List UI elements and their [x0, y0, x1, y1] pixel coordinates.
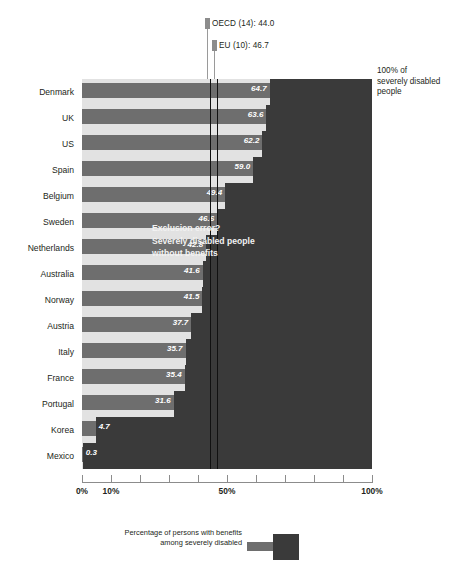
bar [82, 83, 270, 98]
oecd-marker [205, 18, 210, 29]
category-label: France [0, 365, 78, 391]
bar-value-label: 62.2 [244, 136, 263, 145]
bar-row: 35.7 [82, 339, 372, 365]
bar-value-label: 41.5 [184, 292, 203, 301]
axis-tick [285, 475, 286, 483]
bar-row: 0.3 [82, 443, 372, 469]
bar-row: 31.6 [82, 391, 372, 417]
category-label: Norway [0, 287, 78, 313]
axis-tick [140, 475, 141, 483]
bar-row: 63.6 [82, 105, 372, 131]
bar [82, 447, 83, 462]
exclusion-error-annotation: Exclusion error?Severely disabled people… [152, 222, 255, 260]
bar-rows: 64.763.662.259.049.446.642.841.641.537.7… [82, 79, 372, 469]
bar-row: 49.4 [82, 183, 372, 209]
total-population-caption: 100% ofseverely disabledpeople [377, 66, 457, 98]
bar-row: 59.0 [82, 157, 372, 183]
right-caption-line-3: people [377, 87, 402, 96]
bar-row: 4.7 [82, 417, 372, 443]
axis-tick [111, 475, 112, 483]
category-label: Italy [0, 339, 78, 365]
bar-row: 62.2 [82, 131, 372, 157]
bar-value-label: 63.6 [248, 110, 267, 119]
exclusion-line-3: without benefits [152, 248, 218, 258]
category-label: Portugal [0, 391, 78, 417]
category-label: Austria [0, 313, 78, 339]
chart-legend: Percentage of persons with benefitsamong… [82, 528, 332, 562]
chart-page: { "chart_data": { "type": "bar", "orient… [0, 0, 459, 573]
bar [82, 109, 266, 124]
bar [82, 187, 225, 202]
axis-tick [227, 475, 228, 483]
bar-row: 41.6 [82, 261, 372, 287]
value-axis: 0%10%50%100% [82, 475, 372, 487]
axis-tick [169, 475, 170, 483]
bar-row: 64.7 [82, 79, 372, 105]
legend-line-2: among severely disabled [160, 538, 242, 547]
axis-tick [82, 475, 83, 483]
oecd-reference-line [210, 79, 211, 469]
category-label: Australia [0, 261, 78, 287]
bar-value-label: 35.7 [167, 344, 186, 353]
exclusion-line-2: Severely disabled people [152, 236, 255, 246]
category-label: Netherlands [0, 235, 78, 261]
bar-value-label: 37.7 [173, 318, 192, 327]
axis-tick [314, 475, 315, 483]
bar-row: 41.5 [82, 287, 372, 313]
bar-value-label: 41.6 [184, 266, 203, 275]
eu-marker [212, 40, 217, 51]
bar-row: 37.7 [82, 313, 372, 339]
category-label: Mexico [0, 443, 78, 469]
eu-reference-line [217, 79, 218, 469]
bar [82, 161, 253, 176]
category-label: Korea [0, 417, 78, 443]
legend-field-swatch [273, 534, 299, 560]
bar-value-label: 4.7 [99, 422, 110, 431]
axis-tick [198, 475, 199, 483]
axis-tick [372, 475, 373, 483]
axis-tick [343, 475, 344, 483]
axis-tick-label: 50% [219, 486, 236, 496]
oecd-stem [207, 29, 208, 79]
axis-tick-label: 100% [361, 486, 382, 496]
category-label: Belgium [0, 183, 78, 209]
category-label: US [0, 131, 78, 157]
axis-tick-label: 0% [76, 486, 88, 496]
category-axis-labels: DenmarkUKUSSpainBelgiumSwedenNetherlands… [0, 79, 78, 469]
right-caption-line-1: 100% of [377, 66, 407, 75]
bar-value-label: 64.7 [251, 84, 270, 93]
axis-tick-label: 10% [103, 486, 120, 496]
category-label: Spain [0, 157, 78, 183]
exclusion-line-1: Exclusion error? [152, 223, 220, 233]
legend-caption: Percentage of persons with benefitsamong… [82, 528, 242, 547]
axis-tick [256, 475, 257, 483]
plot-area: 64.763.662.259.049.446.642.841.641.537.7… [82, 79, 372, 469]
bar-value-label: 35.4 [166, 370, 185, 379]
bar [82, 421, 96, 436]
category-label: Denmark [0, 79, 78, 105]
category-label: UK [0, 105, 78, 131]
oecd-reference-label: OECD (14): 44.0 [212, 19, 274, 28]
category-label: Sweden [0, 209, 78, 235]
bar-value-label: 31.6 [155, 396, 174, 405]
bar-row: 35.4 [82, 365, 372, 391]
bar-value-label: 59.0 [235, 162, 254, 171]
legend-line-1: Percentage of persons with benefits [125, 528, 243, 537]
bar-value-label: 0.3 [86, 448, 97, 457]
eu-reference-label: EU (10): 46.7 [219, 41, 269, 50]
right-caption-line-2: severely disabled [377, 77, 440, 86]
bar [82, 135, 262, 150]
eu-stem [214, 51, 215, 79]
